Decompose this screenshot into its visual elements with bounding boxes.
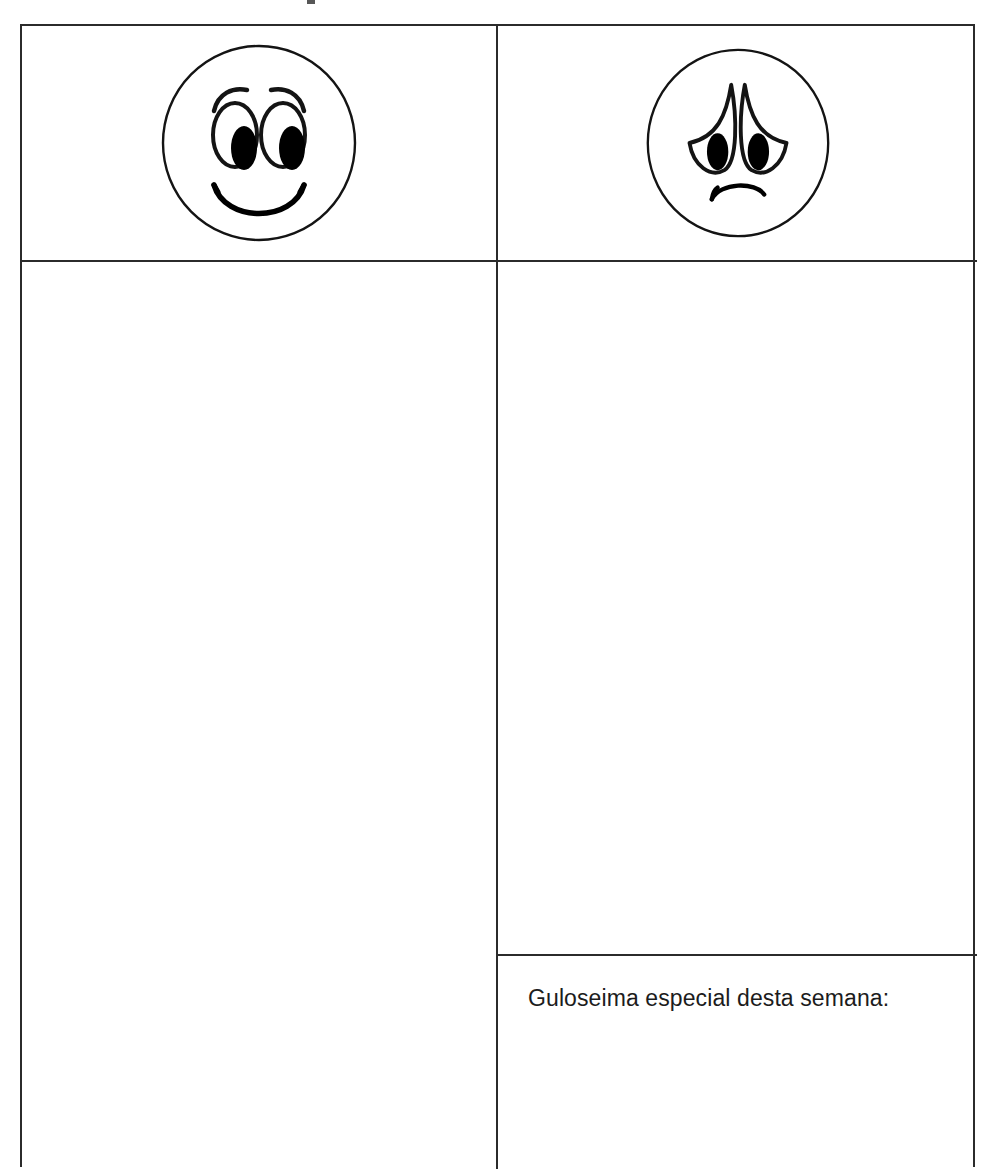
worksheet-table: Guloseima especial desta semana: [20, 24, 975, 1167]
happy-face-wrapper [22, 26, 496, 260]
header-cell-sad [498, 26, 977, 260]
treat-cell[interactable]: Guloseima especial desta semana: [498, 956, 977, 1169]
scan-artifact [307, 0, 315, 4]
sad-face-icon [641, 43, 835, 243]
answer-area-sad[interactable] [498, 262, 977, 954]
sad-face-wrapper [498, 26, 977, 260]
answer-area-happy[interactable] [22, 262, 496, 1169]
happy-face-icon [159, 43, 359, 243]
treat-label: Guloseima especial desta semana: [528, 984, 889, 1012]
header-cell-happy [22, 26, 496, 260]
